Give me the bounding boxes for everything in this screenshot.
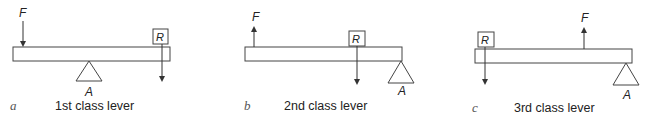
force-label: F — [252, 10, 260, 24]
panel-second-class-lever: F R A b 2nd class lever — [244, 10, 414, 113]
fulcrum-label: A — [397, 84, 406, 98]
force-label: F — [19, 6, 27, 20]
force-label: F — [581, 11, 589, 25]
lever-beam — [245, 47, 402, 61]
lever-beam — [475, 49, 632, 63]
lever-beam — [13, 47, 170, 61]
panel-caption: 2nd class lever — [284, 99, 367, 113]
panel-first-class-lever: F A R a 1st class lever — [10, 6, 170, 113]
resistance-label: R — [481, 34, 489, 46]
fulcrum-label: A — [84, 85, 93, 99]
resistance-label: R — [156, 31, 164, 43]
panel-letter: c — [472, 100, 478, 115]
fulcrum-triangle — [388, 61, 414, 83]
fulcrum-label: A — [622, 88, 631, 102]
resistance-label: R — [352, 33, 360, 45]
lever-diagram: F A R a 1st class lever F R A b 2nd clas… — [0, 0, 649, 121]
fulcrum-triangle — [613, 63, 639, 85]
panel-letter: a — [10, 98, 17, 113]
fulcrum-triangle — [76, 61, 102, 81]
panel-caption: 1st class lever — [55, 99, 134, 113]
panel-caption: 3rd class lever — [514, 101, 595, 115]
panel-letter: b — [244, 98, 251, 113]
panel-third-class-lever: R F A c 3rd class lever — [472, 11, 639, 115]
